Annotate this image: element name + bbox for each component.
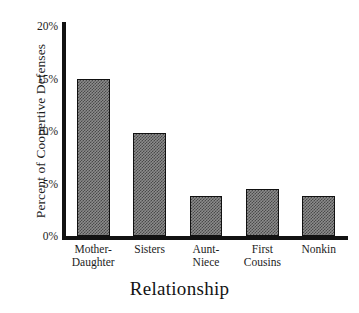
- y-axis-tick-labels: 20%15%10%5%0%: [0, 0, 58, 313]
- bar: [190, 196, 223, 236]
- x-tick-label: Sisters: [121, 243, 177, 256]
- x-axis-line: [62, 236, 348, 240]
- bar: [133, 133, 166, 236]
- x-axis-title: Relationship: [0, 278, 359, 300]
- bar: [302, 196, 335, 236]
- x-tick-label: Nonkin: [291, 243, 347, 256]
- y-tick-label: 20%: [0, 20, 58, 32]
- x-tick-label: First Cousins: [234, 243, 290, 268]
- bar: [77, 79, 110, 237]
- x-tick-label: Aunt- Niece: [178, 243, 234, 268]
- x-tick-label: Mother- Daughter: [65, 243, 121, 268]
- y-tick-label: 15%: [0, 73, 58, 85]
- bar: [246, 189, 279, 236]
- y-tick-label: 10%: [0, 125, 58, 137]
- y-tick-label: 5%: [0, 178, 58, 190]
- y-tick-label: 0%: [0, 230, 58, 242]
- plot-area: [65, 26, 347, 236]
- bar-chart-figure: Percent of Coopertive Defenses 20%15%10%…: [0, 0, 359, 313]
